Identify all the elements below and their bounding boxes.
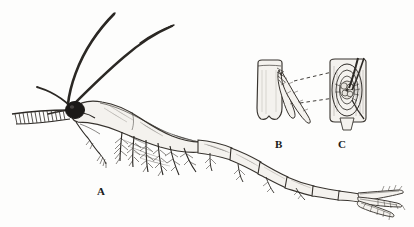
c-socket-lobe-d [347, 91, 353, 97]
figure-plate: A B C [0, 0, 414, 227]
panel-b-appendage [257, 60, 310, 123]
c-socket-cluster [340, 81, 354, 99]
panel-c-detail [330, 58, 366, 130]
panel-label-c: C [338, 139, 346, 150]
panel-bc-illustration [0, 0, 414, 227]
c-stem-lower [340, 118, 354, 130]
panel-label-b: B [275, 139, 282, 150]
c-socket-lobe-a [341, 83, 347, 89]
panel-label-a: A [97, 186, 105, 197]
c-socket-core [345, 88, 348, 91]
